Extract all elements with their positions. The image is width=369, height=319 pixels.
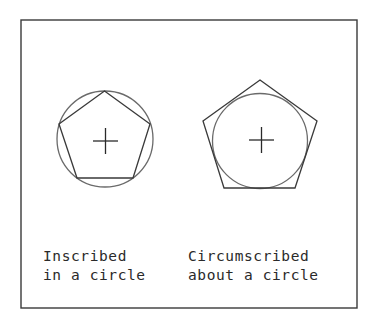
- circumscribed-caption: Circumscribed about a circle: [188, 247, 319, 285]
- caption-line: Circumscribed: [188, 247, 319, 266]
- inscribed-caption: Inscribed in a circle: [43, 247, 146, 285]
- center-cross-icon: [249, 127, 274, 153]
- caption-line: about a circle: [188, 266, 319, 285]
- center-cross-icon: [93, 128, 118, 154]
- caption-line: in a circle: [43, 266, 146, 285]
- circumscribed-pentagon-figure: [203, 80, 317, 189]
- caption-line: Inscribed: [43, 247, 146, 266]
- circumscribed-pentagon: [203, 80, 317, 188]
- inscribed-pentagon-figure: [57, 91, 153, 187]
- inscribed-circle: [213, 94, 308, 189]
